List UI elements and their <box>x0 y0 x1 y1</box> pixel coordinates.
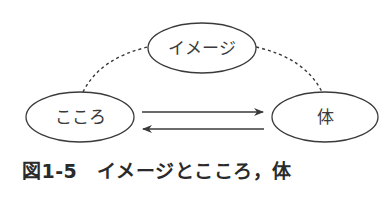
figure-caption: 図1-5 イメージとこころ，体 <box>22 156 292 183</box>
dashed-connector-kokoro-image <box>83 47 148 92</box>
node-kokoro: こころ <box>26 92 134 142</box>
node-image: イメージ <box>148 23 256 73</box>
node-body-label: 体 <box>317 107 334 127</box>
dashed-connector-image-body <box>256 47 322 92</box>
node-image-label: イメージ <box>168 38 236 58</box>
node-kokoro-label: こころ <box>55 107 106 127</box>
node-body: 体 <box>272 92 378 142</box>
